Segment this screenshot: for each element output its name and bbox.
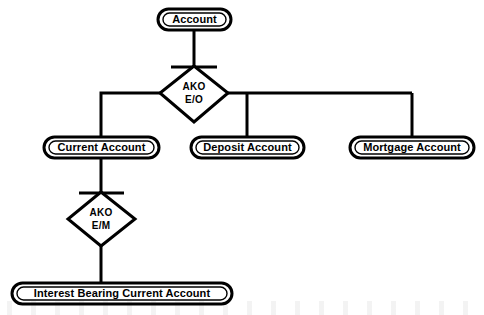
ako-eo-line1: AKO — [183, 81, 206, 92]
deposit-account-label: Deposit Account — [203, 141, 292, 153]
entity-node-interest-bearing-current-account[interactable]: Interest Bearing Current Account — [12, 283, 232, 304]
interest-bearing-label: Interest Bearing Current Account — [34, 287, 211, 299]
entity-node-deposit-account[interactable]: Deposit Account — [191, 137, 304, 158]
ako-em-line1: AKO — [90, 207, 113, 218]
account-label: Account — [172, 13, 217, 25]
entity-node-mortgage-account[interactable]: Mortgage Account — [350, 137, 474, 158]
diagram-canvas: AKO E/O AKO E/M Account Current Account … — [0, 0, 484, 315]
entity-node-account[interactable]: Account — [158, 9, 231, 30]
hierarchy-diagram: AKO E/O AKO E/M Account Current Account … — [0, 0, 484, 315]
mortgage-account-label: Mortgage Account — [363, 141, 461, 153]
relation-node-ako-em[interactable]: AKO E/M — [68, 192, 135, 246]
ako-eo-line2: E/O — [185, 94, 203, 105]
current-account-label: Current Account — [58, 141, 146, 153]
relation-node-ako-eo[interactable]: AKO E/O — [160, 66, 228, 122]
ako-em-line2: E/M — [92, 220, 110, 231]
entity-node-current-account[interactable]: Current Account — [44, 137, 159, 158]
connector-ako-eo-to-current-account — [101, 93, 160, 137]
